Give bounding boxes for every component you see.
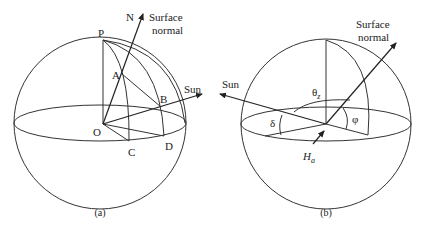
phi-arc	[343, 108, 347, 129]
label-o: O	[93, 126, 101, 138]
label-hour-angle-sub: a	[311, 156, 315, 165]
label-phi: φ	[352, 113, 358, 125]
label-delta: δ	[270, 117, 275, 129]
label-hour-angle: Ha	[302, 150, 315, 165]
label-c: C	[128, 146, 135, 158]
sphere-outline-a	[14, 37, 186, 209]
label-surface-b-1: Surface	[356, 18, 390, 30]
caption-a: (a)	[94, 207, 105, 219]
surface-normal-arrow-a	[103, 14, 143, 124]
label-theta-z-sub: z	[316, 92, 321, 101]
label-sun-a: Sun	[184, 83, 202, 95]
label-surface-a-1: Surface	[149, 11, 183, 23]
panel-a: N Surface normal P A B O C D Sun (a)	[14, 11, 202, 219]
label-theta-z: θz	[312, 86, 321, 101]
meridian-arc-outer	[103, 40, 185, 123]
label-p: P	[98, 27, 104, 39]
label-a: A	[112, 69, 120, 81]
celestial-sphere-figure: N Surface normal P A B O C D Sun (a)	[0, 0, 422, 229]
label-d: D	[165, 140, 173, 152]
label-b: B	[160, 93, 167, 105]
caption-b: (b)	[320, 207, 332, 219]
panel-b: Surface normal Sun θz δ φ Ha (b)	[220, 18, 411, 219]
meridian-arc-pc	[103, 40, 129, 141]
sun-ray-arrow-a	[103, 94, 202, 124]
label-n: N	[126, 11, 134, 23]
label-sun-b: Sun	[222, 78, 240, 90]
label-surface-b-2: normal	[358, 31, 389, 43]
label-surface-a-2: normal	[152, 24, 183, 36]
delta-arc	[280, 115, 282, 135]
hour-angle-arrow	[313, 131, 324, 144]
